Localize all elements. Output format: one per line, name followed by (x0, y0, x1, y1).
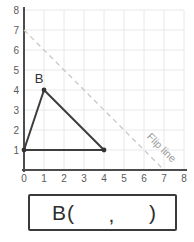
x-tick-label: 6 (141, 173, 147, 184)
y-tick-label: 6 (13, 45, 19, 56)
y-tick-labels: 12345678 (13, 5, 19, 156)
answer-slot-x[interactable] (75, 196, 109, 229)
y-tick-label: 5 (13, 65, 19, 76)
y-tick-label: 1 (13, 145, 19, 156)
x-tick-label: 7 (161, 173, 167, 184)
open-paren-icon: ( (67, 201, 75, 225)
comma-separator: , (109, 203, 116, 227)
answer-prefix: B (52, 201, 67, 225)
x-tick-label: 8 (181, 173, 187, 184)
point-b-label: B (35, 71, 44, 86)
y-tick-label: 2 (13, 125, 19, 136)
vertex-dot (22, 148, 27, 153)
x-tick-label: 3 (81, 173, 87, 184)
vertex-dot (102, 148, 107, 153)
y-tick-label: 8 (13, 5, 19, 16)
answer-slot-y[interactable] (115, 196, 149, 229)
x-tick-label: 4 (101, 173, 107, 184)
x-tick-label: 0 (21, 173, 27, 184)
x-tick-labels: 012345678 (21, 173, 187, 184)
y-tick-label: 7 (13, 25, 19, 36)
coordinate-grid: Flip line B 012345678 12345678 (0, 0, 194, 188)
y-tick-label: 4 (13, 85, 19, 96)
x-tick-label: 1 (41, 173, 47, 184)
vertex-dot (42, 88, 47, 93)
exercise-panel: Flip line B 012345678 12345678 B( , ) (0, 0, 194, 242)
y-tick-label: 3 (13, 105, 19, 116)
x-tick-label: 5 (121, 173, 127, 184)
close-paren-icon: ) (149, 201, 157, 225)
answer-box[interactable]: B( , ) (28, 194, 177, 231)
x-tick-label: 2 (61, 173, 67, 184)
flip-line-label: Flip line (145, 130, 179, 164)
